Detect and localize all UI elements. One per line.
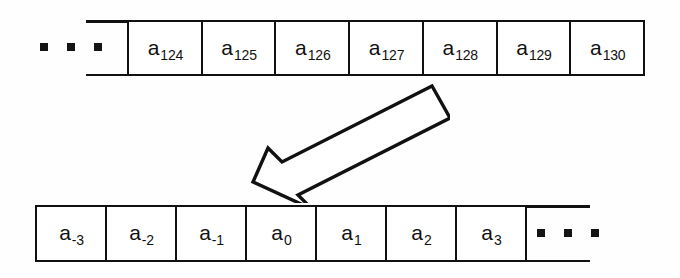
array-cell-label: a0	[271, 222, 290, 243]
array-cell: a125	[203, 22, 277, 74]
array-cell-label: a126	[295, 37, 329, 58]
mapping-arrow	[240, 78, 450, 203]
array-cell-label: a-1	[199, 222, 223, 243]
source-array-cells: a124 a125 a126 a127 a128 a129 a130	[127, 20, 645, 76]
array-cell: a-1	[177, 207, 247, 260]
array-cell: a128	[424, 22, 498, 74]
array-cell-label: a128	[443, 37, 477, 58]
target-array-cells: a-3 a-2 a-1 a0 a1 a2 a3	[35, 205, 527, 262]
diagram-canvas: a124 a125 a126 a127 a128 a129 a130	[0, 0, 680, 278]
array-cell-label: a1	[341, 222, 360, 243]
array-cell-label: a125	[221, 37, 255, 58]
source-array-row: a124 a125 a126 a127 a128 a129 a130	[127, 20, 645, 76]
mapping-arrow-shape	[253, 86, 450, 203]
ellipsis-dot	[564, 229, 572, 237]
array-cell-label: a127	[369, 37, 403, 58]
array-cell: a1	[317, 207, 387, 260]
target-array-rail-upper	[525, 205, 590, 208]
array-cell: a-3	[37, 207, 107, 260]
array-cell: a3	[457, 207, 525, 260]
source-array-rail-upper	[86, 20, 129, 23]
array-cell: a130	[571, 22, 643, 74]
array-cell: a127	[350, 22, 424, 74]
source-array-ellipsis	[40, 43, 102, 51]
ellipsis-dot	[94, 43, 102, 51]
array-cell-label: a130	[590, 37, 624, 58]
array-cell-label: a-3	[59, 222, 83, 243]
ellipsis-dot	[537, 229, 545, 237]
array-cell-label: a-2	[129, 222, 153, 243]
ellipsis-dot	[67, 43, 75, 51]
ellipsis-dot	[591, 229, 599, 237]
array-cell: a2	[387, 207, 457, 260]
array-cell: a126	[276, 22, 350, 74]
array-cell-label: a2	[411, 222, 430, 243]
array-cell-label: a124	[148, 37, 182, 58]
ellipsis-dot	[40, 43, 48, 51]
array-cell: a124	[129, 22, 203, 74]
target-array-rail-lower	[525, 260, 590, 263]
array-cell-label: a3	[481, 222, 500, 243]
array-cell: a129	[498, 22, 572, 74]
array-cell-label: a129	[516, 37, 550, 58]
array-cell: a0	[247, 207, 317, 260]
target-array-row: a-3 a-2 a-1 a0 a1 a2 a3	[35, 205, 527, 262]
array-cell: a-2	[107, 207, 177, 260]
source-array-rail-lower	[86, 74, 129, 77]
target-array-ellipsis	[537, 229, 599, 237]
